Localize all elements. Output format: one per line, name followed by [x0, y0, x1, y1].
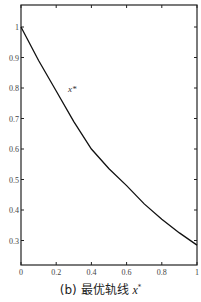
caption-prefix: (b) 最优轨线: [60, 283, 133, 297]
x-tick-label: 0.2: [51, 268, 61, 277]
y-tick-label: 0.4: [9, 206, 19, 215]
x-tick-label: 0.6: [122, 268, 132, 277]
caption-superscript: *: [138, 283, 142, 291]
x-tick-label: 1: [195, 268, 199, 277]
y-tick-label: 0.3: [9, 237, 19, 246]
y-tick-label: 0.7: [9, 115, 19, 124]
y-tick-label: 0.6: [9, 145, 19, 154]
x-tick-label: 0.8: [157, 268, 167, 277]
y-axis-ticks: 0.30.40.50.60.70.80.91: [9, 23, 197, 246]
figure-caption: (b) 最优轨线 x*: [0, 280, 201, 298]
line-chart: 00.20.40.60.81 0.30.40.50.60.70.80.91 x*…: [0, 0, 201, 280]
series-line-x-star: [21, 27, 197, 245]
y-tick-label: 0.5: [9, 176, 19, 185]
x-tick-label: 0.4: [86, 268, 96, 277]
y-tick-label: 0.9: [9, 54, 19, 63]
curve-label: x*: [67, 84, 77, 94]
y-tick-label: 0.8: [9, 84, 19, 93]
x-axis-ticks: 00.20.40.60.81: [19, 5, 199, 277]
x-tick-label: 0: [19, 268, 23, 277]
y-tick-label: 1: [15, 23, 19, 32]
